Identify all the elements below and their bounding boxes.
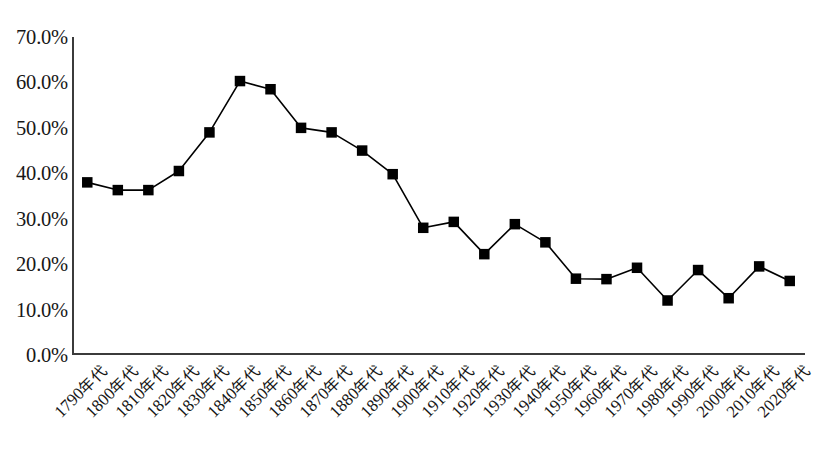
line-chart: 70.0%60.0%50.0%40.0%30.0%20.0%10.0%0.0% … — [0, 0, 824, 467]
x-axis: 1790年代1800年代1810年代1820年代1830年代1840年代1850… — [0, 0, 824, 467]
